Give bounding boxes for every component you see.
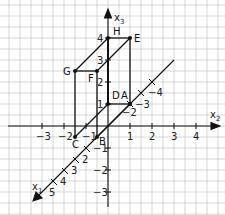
x3-tick: 4 (97, 33, 103, 44)
point-A (128, 102, 132, 106)
x1-axis-label: x1 (32, 181, 42, 195)
x2-tick: 2 (149, 131, 155, 142)
label-F: F (88, 73, 94, 84)
x2-tick: 1 (127, 131, 133, 142)
x1-tick: 5 (49, 187, 55, 198)
x3-tick: −2 (93, 165, 108, 176)
x2-tick: −2 (58, 131, 73, 142)
point-G (73, 69, 77, 73)
point-F (95, 69, 99, 73)
x3-arrow-icon (105, 9, 112, 18)
label-E: E (134, 33, 140, 44)
x3-tick: −3 (93, 187, 108, 198)
diagram-canvas: H E G F D A C B x3 x2 x1 −3 −2 −1 1 2 3 … (0, 0, 225, 215)
x2-arrow-icon (211, 123, 220, 130)
x1-tick: 2 (82, 154, 88, 165)
x1-tick: 4 (60, 176, 66, 187)
point-E (128, 36, 132, 40)
x2-tick: −1 (82, 131, 97, 142)
point-D (106, 102, 110, 106)
x1-tick: −3 (135, 99, 150, 110)
x2-tick: 4 (193, 131, 199, 142)
coordinate-diagram: H E G F D A C B x3 x2 x1 −3 −2 −1 1 2 3 … (0, 0, 225, 215)
x2-tick: 3 (171, 131, 177, 142)
x3-tick: −1 (93, 143, 108, 154)
x3-tick: 3 (97, 55, 103, 66)
label-D: D (112, 90, 120, 101)
x3-tick: 2 (97, 77, 103, 88)
x1-tick: −4 (148, 87, 163, 98)
point-H (106, 36, 110, 40)
x3-axis-label: x3 (114, 12, 124, 26)
label-A: A (121, 90, 128, 101)
axes (8, 9, 220, 207)
x2-tick: −3 (36, 131, 51, 142)
label-H: H (113, 26, 121, 37)
x2-axis-label: x2 (210, 109, 220, 123)
label-C: C (72, 139, 79, 150)
x3-tick: 1 (97, 99, 103, 110)
x1-tick: 3 (71, 165, 77, 176)
label-G: G (63, 66, 71, 77)
